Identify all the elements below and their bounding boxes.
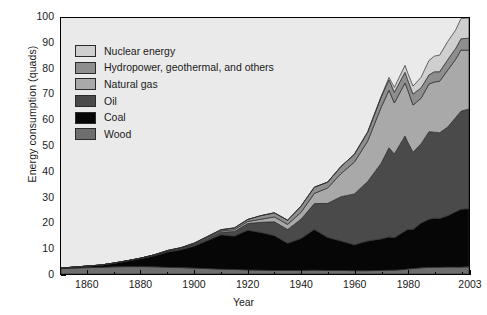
y-axis-tick-label: 50 [14, 140, 54, 150]
x-axis-tick-mark [470, 270, 471, 275]
x-axis-tick-mark [301, 270, 302, 275]
legend-swatch-icon [75, 45, 96, 57]
x-axis-tick-label: 1960 [332, 279, 378, 290]
x-axis-minor-tick-mark [274, 272, 275, 275]
legend-item[interactable]: Wood [75, 126, 274, 143]
x-axis-minor-tick-mark [60, 272, 61, 275]
x-axis-minor-tick-mark [462, 272, 463, 275]
legend-swatch-icon [75, 78, 96, 90]
chart-legend: Nuclear energyHydropower, geothermal, an… [75, 43, 274, 143]
legend-swatch-icon [75, 62, 96, 74]
legend-item-label: Nuclear energy [104, 46, 175, 57]
x-axis-tick-label: 1940 [278, 279, 324, 290]
x-axis-minor-tick-mark [435, 272, 436, 275]
legend-swatch-icon [75, 112, 96, 124]
x-axis-tick-label: 1900 [171, 279, 217, 290]
x-axis-tick-mark [408, 270, 409, 275]
y-axis-tick-label: 40 [14, 166, 54, 176]
x-axis-tick-mark [355, 270, 356, 275]
x-axis-tick-mark [87, 270, 88, 275]
x-axis-minor-tick-mark [114, 272, 115, 275]
x-axis-tick-label: 2003 [447, 279, 487, 290]
legend-item[interactable]: Oil [75, 93, 274, 110]
x-axis-tick-label: 1860 [64, 279, 110, 290]
x-axis-tick-label: 1920 [225, 279, 271, 290]
x-axis-tick-mark [248, 270, 249, 275]
legend-item-label: Oil [104, 96, 117, 107]
x-axis-minor-tick-mark [167, 272, 168, 275]
legend-item[interactable]: Hydropower, geothermal, and others [75, 60, 274, 77]
y-axis-tick-label: 0 [14, 269, 54, 279]
legend-swatch-icon [75, 95, 96, 107]
plot-area: Nuclear energyHydropower, geothermal, an… [60, 17, 470, 275]
energy-consumption-stacked-area-chart: Energy consumption (quads) 0102030405060… [0, 0, 487, 315]
legend-swatch-icon [75, 128, 96, 140]
x-axis-minor-tick-mark [221, 272, 222, 275]
y-axis-tick-label: 20 [14, 217, 54, 227]
x-axis-tick-label: 1880 [117, 279, 163, 290]
x-axis-minor-tick-mark [328, 272, 329, 275]
x-axis-tick-mark [194, 270, 195, 275]
y-axis-tick-label: 70 [14, 88, 54, 98]
x-axis-tick-label: 1980 [385, 279, 431, 290]
y-axis-tick-label: 80 [14, 63, 54, 73]
legend-item-label: Wood [104, 129, 131, 140]
y-axis-tick-label: 60 [14, 114, 54, 124]
legend-item[interactable]: Natural gas [75, 76, 274, 93]
legend-item-label: Coal [104, 112, 126, 123]
legend-item[interactable]: Coal [75, 109, 274, 126]
y-axis-tick-label: 90 [14, 37, 54, 47]
x-axis-title: Year [0, 296, 487, 308]
x-axis-minor-tick-mark [382, 272, 383, 275]
legend-item-label: Hydropower, geothermal, and others [104, 62, 274, 73]
y-axis-tick-label: 10 [14, 243, 54, 253]
y-axis-tick-label: 100 [14, 11, 54, 21]
y-axis-tick-mark [61, 275, 66, 276]
y-axis-tick-label: 30 [14, 192, 54, 202]
x-axis-tick-mark [140, 270, 141, 275]
legend-item[interactable]: Nuclear energy [75, 43, 274, 60]
legend-item-label: Natural gas [104, 79, 158, 90]
